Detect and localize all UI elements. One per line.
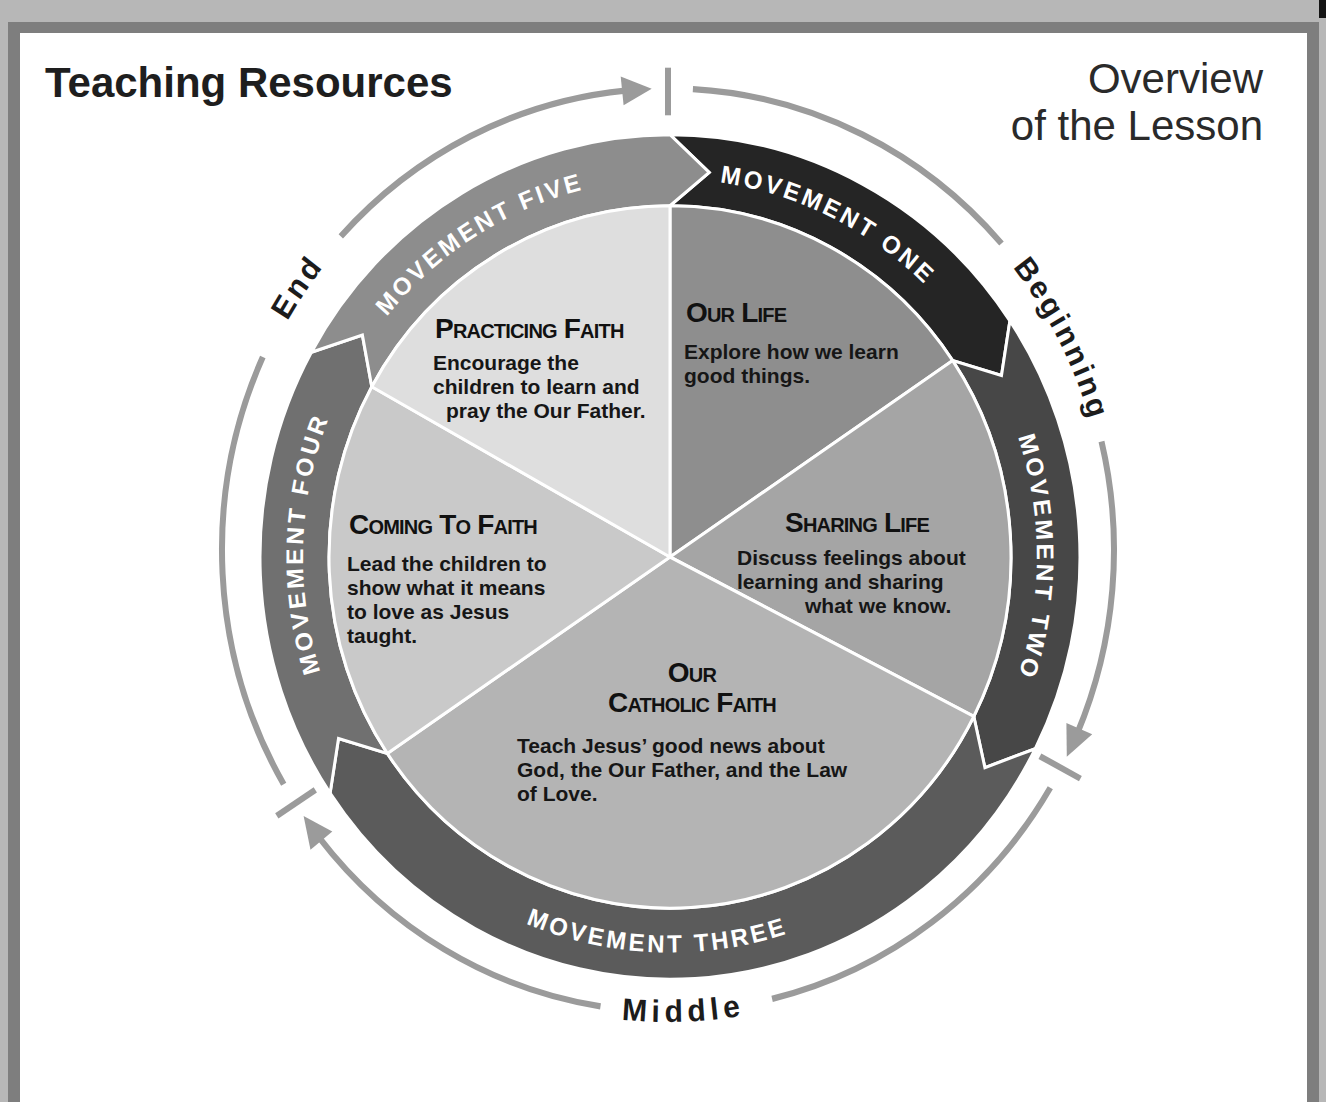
overview-heading-line-2: of the Lesson [1011, 102, 1263, 149]
section-heading: Practicing Faith [435, 314, 624, 344]
phase-label-end: End [264, 248, 329, 325]
phase-label-middle: Middle [621, 987, 747, 1028]
overview-heading: Overview of the Lesson [1011, 55, 1263, 149]
description-line: taught. [347, 624, 547, 648]
description-line: what we know. [805, 594, 966, 618]
description-line: Lead the children to [347, 552, 547, 576]
section-description: Teach Jesus’ good news about God, the Ou… [517, 734, 847, 806]
description-line: show what it means [347, 576, 547, 600]
phase-divider-tick [1040, 756, 1081, 778]
description-line: God, the Our Father, and the Law [517, 758, 847, 782]
section-heading: Sharing Life [785, 508, 929, 538]
section-description: Explore how we learn good things. [684, 340, 899, 388]
description-line: Encourage the [433, 351, 646, 375]
section-description: Lead the children to show what it means … [347, 552, 547, 648]
description-line: good things. [684, 364, 899, 388]
phase-label-middle-text: Middle [621, 987, 747, 1028]
overview-heading-line-1: Overview [1011, 55, 1263, 102]
description-line: Discuss feelings about [737, 546, 966, 570]
arrow-head-icon [621, 76, 652, 105]
description-line: to love as Jesus [347, 600, 547, 624]
description-line: children to learn and [433, 375, 646, 399]
description-line: Teach Jesus’ good news about [517, 734, 847, 758]
section-heading: Our Catholic Faith [592, 658, 792, 718]
guide-arc-beginning-end [1077, 441, 1114, 734]
section-heading-line-1: Our [592, 658, 792, 688]
phase-label-end-text: End [264, 248, 329, 325]
page-title: Teaching Resources [45, 62, 453, 104]
description-line: Explore how we learn [684, 340, 899, 364]
description-line: pray the Our Father. [446, 399, 646, 423]
phase-divider-tick [277, 790, 316, 816]
description-line: learning and sharing [737, 570, 966, 594]
section-description: Discuss feelings about learning and shar… [737, 546, 966, 618]
description-line: of Love. [517, 782, 847, 806]
section-heading: Our Life [686, 298, 786, 328]
section-heading-line-2: Catholic Faith [592, 688, 792, 718]
section-description: Encourage the children to learn and pray… [433, 351, 646, 423]
section-heading: Coming To Faith [349, 510, 537, 540]
